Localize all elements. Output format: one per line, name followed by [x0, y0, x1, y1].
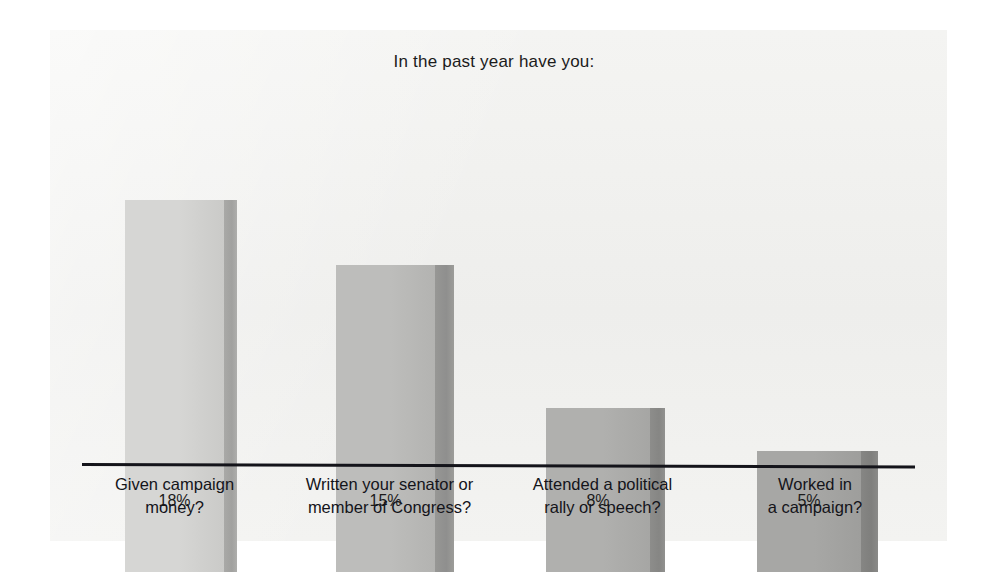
category-label-4: Worked in a campaign? — [715, 473, 915, 519]
category-label-3-line2: rally or speech? — [500, 496, 705, 519]
category-label-1-line1: Given campaign — [115, 475, 234, 493]
category-label-4-line2: a campaign? — [715, 496, 915, 519]
category-label-4-line1: Worked in — [778, 475, 852, 493]
category-label-1-line2: money? — [72, 496, 277, 519]
plot-area: 18% 15% 8% 5% Given campaign money? Writ… — [0, 0, 988, 572]
category-label-1: Given campaign money? — [72, 473, 277, 519]
bar-group-2: 15% — [336, 265, 435, 572]
category-label-2-line2: member of Congress? — [283, 496, 496, 519]
bar-side-face-2 — [435, 265, 454, 572]
category-label-3-line1: Attended a political — [533, 475, 672, 493]
category-label-2: Written your senator or member of Congre… — [283, 473, 496, 519]
figure-canvas: In the past year have you: 18% 15% 8% 5% — [0, 0, 988, 572]
category-label-2-line1: Written your senator or — [306, 475, 474, 493]
category-label-3: Attended a political rally or speech? — [500, 473, 705, 519]
bar-front-face-2 — [336, 265, 435, 572]
